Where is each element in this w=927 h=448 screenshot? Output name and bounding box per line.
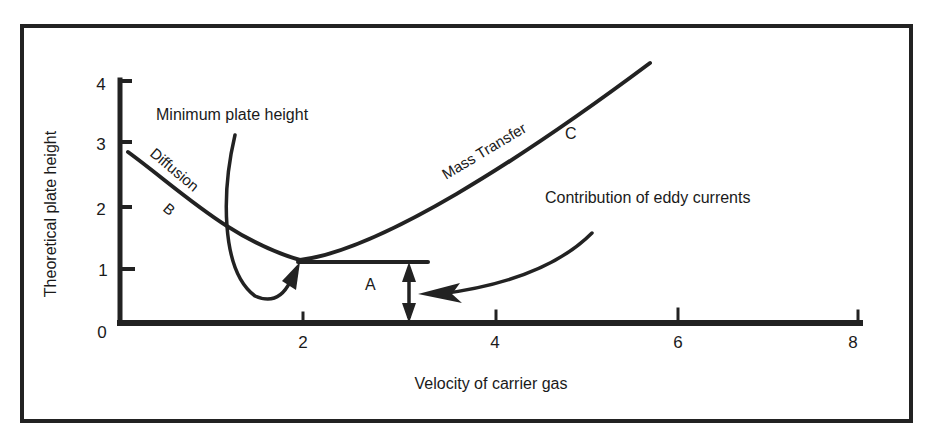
label-b: B (160, 199, 179, 218)
label-mass-transfer: Mass Transfer (439, 119, 529, 183)
y-tick-2: 2 (96, 200, 105, 219)
label-c: C (565, 125, 577, 142)
outer-frame (22, 26, 911, 421)
arrowhead-up (402, 262, 416, 282)
y-tick-3: 3 (96, 135, 105, 154)
x-tick-8: 8 (848, 333, 857, 352)
label-minimum-plate-height: Minimum plate height (156, 106, 309, 123)
y-axis-title: Theoretical plate height (42, 130, 59, 297)
eddy-pointer-curve (440, 233, 592, 294)
minimum-pointer-curve (226, 135, 290, 299)
minimum-pointer-arrowhead (282, 262, 300, 290)
y-tick-4: 4 (96, 75, 105, 94)
x-axis-title: Velocity of carrier gas (415, 375, 568, 392)
y-tick-1: 1 (98, 261, 107, 280)
plate-height-curve (128, 63, 650, 260)
x-tick-2: 2 (298, 333, 307, 352)
label-a: A (365, 276, 376, 293)
x-tick-4: 4 (490, 333, 499, 352)
plate-height-diagram: 4 3 2 1 0 2 4 6 8 Velocity of carrier ga… (0, 0, 927, 448)
x-tick-6: 6 (673, 333, 682, 352)
x-tick-0: 0 (97, 323, 106, 342)
label-eddy-currents: Contribution of eddy currents (545, 189, 750, 206)
